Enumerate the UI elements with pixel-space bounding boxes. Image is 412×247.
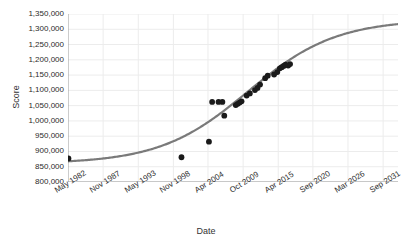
x-axis-tick-labels: May 1982Nov 1987May 1993Nov 1998Apr 2004… bbox=[0, 0, 412, 247]
x-tick-label: Apr 2004 bbox=[193, 170, 225, 195]
x-tick-label: Mar 2026 bbox=[333, 169, 366, 195]
x-tick-label: Sep 2031 bbox=[368, 169, 402, 195]
x-tick-label: Sep 2020 bbox=[298, 169, 332, 195]
x-tick-label: Oct 2009 bbox=[228, 170, 260, 195]
chart-container: Score 800,000850,000900,000950,0001,000,… bbox=[0, 0, 412, 247]
x-tick-label: May 1982 bbox=[53, 168, 88, 194]
x-tick-label: Apr 2015 bbox=[263, 170, 295, 195]
x-axis-title: Date bbox=[0, 226, 412, 236]
x-tick-label: May 1993 bbox=[123, 168, 158, 194]
x-tick-label: Nov 1998 bbox=[158, 169, 192, 195]
x-tick-label: Nov 1987 bbox=[88, 169, 122, 195]
